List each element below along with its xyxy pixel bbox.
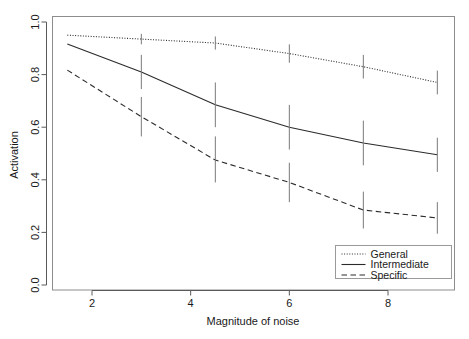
x-tick-label: 8 [385, 297, 391, 309]
y-tick-label: 1.0 [29, 14, 41, 29]
x-tick-label: 6 [286, 297, 292, 309]
y-tick-label: 0.8 [29, 67, 41, 82]
series-line-intermediate [67, 44, 437, 155]
series-line-general [67, 35, 437, 82]
y-tick-label: 0.6 [29, 120, 41, 135]
chart-page: 0.00.20.40.60.81.0 2468 Activation Magni… [0, 0, 469, 339]
y-tick-label: 0.2 [29, 225, 41, 240]
y-tick-label: 0.4 [29, 172, 41, 187]
x-axis-title: Magnitude of noise [207, 315, 300, 327]
activation-vs-noise-chart: 0.00.20.40.60.81.0 2468 Activation Magni… [0, 0, 469, 339]
y-axis-title: Activation [8, 131, 20, 179]
chart-legend[interactable]: GeneralIntermediateSpecific [336, 246, 452, 281]
legend-label-specific[interactable]: Specific [371, 269, 408, 281]
data-series-group [67, 35, 437, 218]
x-tick-label: 4 [188, 297, 194, 309]
x-axis: 2468 [89, 291, 391, 310]
x-tick-label: 2 [89, 297, 95, 309]
error-bars-group [141, 34, 437, 234]
y-tick-label: 0.0 [29, 277, 41, 292]
y-axis: 0.00.20.40.60.81.0 [29, 14, 47, 292]
series-line-specific [67, 70, 437, 218]
